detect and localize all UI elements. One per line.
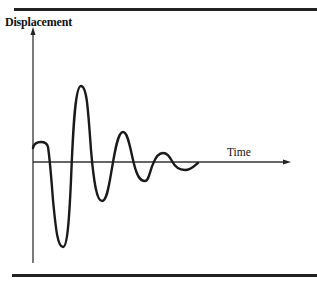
damped-oscillation-plot — [0, 0, 317, 283]
bottom-rule — [12, 274, 317, 277]
y-axis-arrow-icon — [31, 27, 36, 35]
x-axis-arrow-icon — [283, 160, 291, 165]
displacement-curve — [33, 86, 198, 247]
